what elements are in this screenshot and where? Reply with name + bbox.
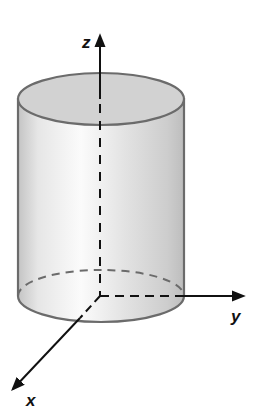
x-axis-label: x	[25, 391, 37, 410]
x-axis-solid	[13, 318, 80, 389]
z-axis-label: z	[81, 33, 91, 52]
cylinder-diagram: z y x	[0, 0, 258, 420]
y-axis-label: y	[230, 307, 242, 326]
